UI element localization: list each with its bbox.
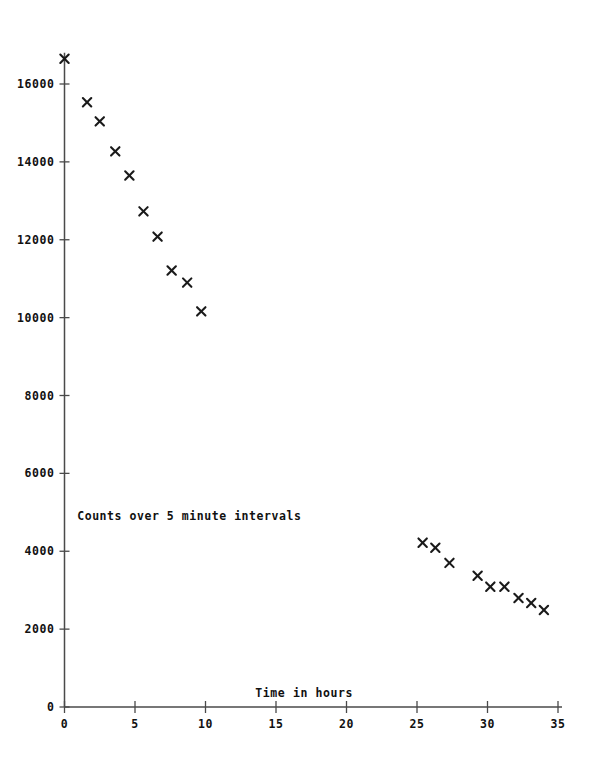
data-point-marker [139, 207, 147, 215]
data-point-marker [125, 171, 133, 179]
x-axis-title: Time in hours [255, 686, 353, 700]
data-point-marker [540, 606, 548, 614]
y-tick-label: 10000 [17, 311, 55, 325]
y-tick-label: 16000 [17, 77, 55, 91]
data-point-marker [473, 572, 481, 580]
x-axis-tick-labels: 05101520253035 [61, 717, 566, 731]
data-point-marker [486, 582, 494, 590]
data-point-marker [418, 538, 426, 546]
y-tick-label: 8000 [24, 389, 54, 403]
x-axis-title-label: Time in hours [255, 686, 353, 700]
plot-annotations: Counts over 5 minute intervals [77, 509, 301, 523]
y-tick-label: 14000 [17, 155, 55, 169]
data-point-marker [96, 117, 104, 125]
x-tick-label: 5 [131, 717, 139, 731]
chart-canvas: 0200040006000800010000120001400016000 05… [0, 0, 593, 776]
y-tick-label: 4000 [24, 544, 54, 558]
data-point-marker [183, 278, 191, 286]
y-tick-label: 12000 [17, 233, 55, 247]
x-tick-label: 15 [268, 717, 283, 731]
data-point-marker [153, 232, 161, 240]
data-point-marker [445, 559, 453, 567]
y-tick-label: 2000 [24, 622, 54, 636]
x-tick-label: 10 [198, 717, 213, 731]
y-tick-label: 0 [47, 700, 55, 714]
x-tick-label: 0 [61, 717, 69, 731]
data-point-marker [431, 544, 439, 552]
annotation-label: Counts over 5 minute intervals [77, 509, 301, 523]
data-point-marker [83, 98, 91, 106]
x-tick-label: 25 [409, 717, 424, 731]
y-tick-label: 6000 [24, 466, 54, 480]
data-point-marker [111, 147, 119, 155]
data-point-marker [527, 599, 535, 607]
data-points [60, 54, 548, 614]
x-tick-label: 35 [550, 717, 565, 731]
x-tick-label: 30 [480, 717, 495, 731]
data-point-marker [514, 594, 522, 602]
data-point-marker [167, 266, 175, 274]
scatter-plot-figure: 0200040006000800010000120001400016000 05… [0, 0, 593, 776]
y-axis-tick-labels: 0200040006000800010000120001400016000 [17, 77, 55, 714]
data-point-marker [500, 582, 508, 590]
x-tick-label: 20 [339, 717, 354, 731]
data-point-marker [197, 307, 205, 315]
